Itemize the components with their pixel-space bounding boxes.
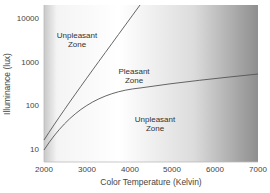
- chart: 10000 1000 100 10 2000 3000 4000 5000 60…: [0, 0, 270, 193]
- zone-label-unpleasant-bottom-1: Unpleasant: [135, 115, 176, 124]
- x-tick-3000: 3000: [78, 165, 96, 174]
- y-tick-10000: 10000: [17, 14, 40, 23]
- y-tick-10: 10: [30, 145, 39, 154]
- zone-label-pleasant-2: Zone: [125, 76, 144, 85]
- x-tick-5000: 5000: [163, 165, 181, 174]
- x-tick-4000: 4000: [121, 165, 139, 174]
- y-tick-100: 100: [26, 101, 40, 110]
- x-tick-6000: 6000: [206, 165, 224, 174]
- y-axis-label: Illuminance (lux): [2, 53, 12, 115]
- x-tick-7000: 7000: [249, 165, 267, 174]
- zone-label-unpleasant-top-2: Zone: [68, 40, 87, 49]
- y-tick-1000: 1000: [21, 58, 39, 67]
- x-axis-label: Color Temperature (Kelvin): [100, 177, 202, 187]
- zone-label-pleasant-1: Pleasant: [118, 67, 150, 76]
- x-tick-2000: 2000: [35, 165, 53, 174]
- zone-label-unpleasant-top-1: Unpleasant: [57, 31, 98, 40]
- plot-area: [44, 5, 258, 162]
- zone-label-unpleasant-bottom-2: Zone: [146, 124, 165, 133]
